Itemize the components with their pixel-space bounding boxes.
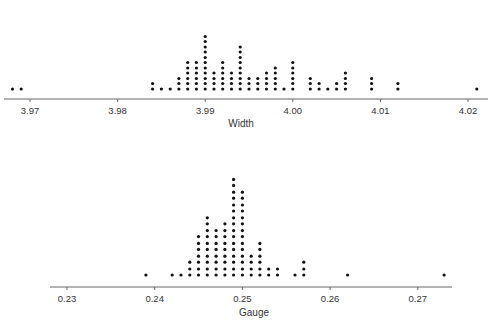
width-dots (11, 35, 479, 91)
data-dot (215, 229, 218, 232)
data-dot (232, 229, 235, 232)
data-dot (230, 82, 233, 85)
data-dot (291, 66, 294, 69)
data-dot (195, 87, 198, 90)
data-dot (232, 242, 235, 245)
data-dot (247, 87, 250, 90)
data-dot (186, 61, 189, 64)
data-dot (241, 248, 244, 251)
data-dot (346, 273, 349, 276)
data-dot (274, 77, 277, 80)
data-dot (239, 82, 242, 85)
data-dot (204, 61, 207, 64)
data-dot (221, 66, 224, 69)
width-dot-plot: 3.973.983.994.004.014.02 Width (4, 35, 488, 129)
data-dot (215, 261, 218, 264)
data-dot (221, 77, 224, 80)
data-dot (256, 82, 259, 85)
data-dot (230, 71, 233, 74)
tick-label: 0.24 (145, 293, 164, 304)
data-dot (276, 273, 279, 276)
data-dot (265, 87, 268, 90)
data-dot (344, 77, 347, 80)
data-dot (197, 267, 200, 270)
data-dot (241, 197, 244, 200)
data-dot (258, 242, 261, 245)
data-dot (335, 87, 338, 90)
gauge-dot-plot: 0.230.240.250.260.27 Gauge (50, 178, 452, 318)
data-dot (223, 261, 226, 264)
data-dot (177, 82, 180, 85)
data-dot (215, 273, 218, 276)
data-dot (197, 255, 200, 258)
data-dot (197, 273, 200, 276)
data-dot (223, 267, 226, 270)
data-dot (274, 66, 277, 69)
data-dot (370, 77, 373, 80)
data-dot (197, 261, 200, 264)
data-dot (335, 82, 338, 85)
data-dot (195, 66, 198, 69)
tick-label: 3.99 (196, 105, 215, 116)
data-dot (206, 235, 209, 238)
data-dot (215, 255, 218, 258)
data-dot (223, 242, 226, 245)
data-dot (232, 184, 235, 187)
data-dot (215, 267, 218, 270)
data-dot (318, 82, 321, 85)
data-dot (232, 235, 235, 238)
data-dot (309, 87, 312, 90)
tick-label: 4.00 (284, 105, 303, 116)
data-dot (241, 229, 244, 232)
data-dot (265, 77, 268, 80)
data-dot (232, 178, 235, 181)
data-dot (309, 82, 312, 85)
data-dot (204, 66, 207, 69)
data-dot (318, 87, 321, 90)
tick-label: 0.23 (58, 293, 77, 304)
tick-label: 0.27 (409, 293, 428, 304)
data-dot (241, 255, 244, 258)
data-dot (370, 87, 373, 90)
data-dot (195, 71, 198, 74)
data-dot (221, 87, 224, 90)
data-dot (232, 216, 235, 219)
data-dot (370, 82, 373, 85)
gauge-axis-label: Gauge (239, 307, 269, 318)
data-dot (291, 77, 294, 80)
data-dot (232, 255, 235, 258)
data-dot (206, 248, 209, 251)
data-dot (204, 56, 207, 59)
data-dot (291, 71, 294, 74)
data-dot (206, 216, 209, 219)
data-dot (206, 255, 209, 258)
width-axis-ticks: 3.973.983.994.004.014.02 (21, 99, 478, 116)
data-dot (188, 261, 191, 264)
data-dot (186, 87, 189, 90)
data-dot (239, 66, 242, 69)
data-dot (215, 248, 218, 251)
tick-label: 0.25 (233, 293, 252, 304)
data-dot (197, 235, 200, 238)
dot-plots-figure: 3.973.983.994.004.014.02 Width 0.230.240… (0, 0, 493, 324)
data-dot (291, 61, 294, 64)
data-dot (326, 87, 329, 90)
data-dot (223, 222, 226, 225)
data-dot (221, 61, 224, 64)
data-dot (221, 82, 224, 85)
data-dot (241, 273, 244, 276)
data-dot (250, 273, 253, 276)
gauge-dots (144, 178, 445, 277)
data-dot (258, 248, 261, 251)
data-dot (302, 261, 305, 264)
data-dot (212, 82, 215, 85)
data-dot (204, 77, 207, 80)
data-dot (188, 273, 191, 276)
data-dot (223, 229, 226, 232)
data-dot (241, 191, 244, 194)
data-dot (171, 273, 174, 276)
data-dot (267, 273, 270, 276)
data-dot (265, 82, 268, 85)
data-dot (274, 87, 277, 90)
data-dot (204, 87, 207, 90)
